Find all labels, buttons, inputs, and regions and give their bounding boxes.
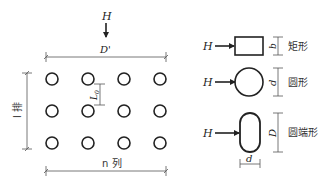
circle-name: 圆形 <box>288 77 308 88</box>
columns-dimension: n 列 <box>44 157 168 176</box>
rectangle-force-label: H <box>202 40 213 53</box>
round-end-name: 圆端形 <box>288 126 318 138</box>
round-end-force-label: H <box>202 127 213 140</box>
columns-dimension-label: n 列 <box>102 157 122 169</box>
round-end-height-label: D <box>267 129 278 138</box>
spacing-dimension: L 0 <box>89 84 105 105</box>
rectangle-dim-label: b <box>268 43 278 49</box>
round-end-width-label: d <box>246 153 252 164</box>
pier-grid <box>46 73 166 149</box>
rows-dimension-label: l 排 <box>11 102 23 118</box>
width-dimension: D' <box>44 44 168 62</box>
circle-force-label: H <box>202 76 213 89</box>
shape-rectangle: H b 矩形 <box>202 37 308 55</box>
spacing-label-main: L <box>89 94 99 101</box>
spacing-label-sub: 0 <box>93 90 100 94</box>
width-dimension-label: D' <box>99 44 111 55</box>
rows-dimension: l 排 <box>11 71 32 151</box>
circle-dim-label: d <box>267 80 278 86</box>
pier-layout-diagram: H D' l 排 L 0 <box>0 0 326 187</box>
top-force-label: H <box>101 10 112 23</box>
rectangle-name: 矩形 <box>288 40 308 52</box>
shape-round-end: H D 圆端形 d <box>202 113 318 168</box>
top-force-arrow: H <box>101 10 112 37</box>
shape-circle: H d 圆形 <box>202 68 308 96</box>
